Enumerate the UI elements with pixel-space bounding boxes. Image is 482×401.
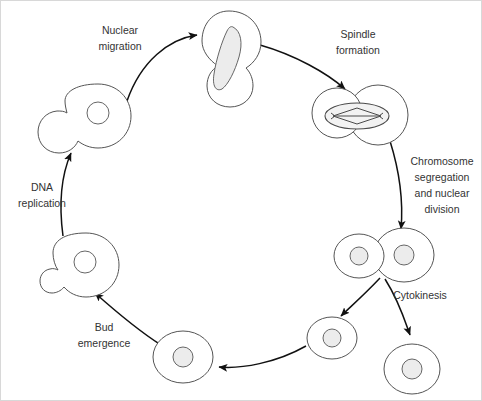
stage-nuclear-division: [334, 228, 434, 282]
stage-nuclear-migration: [202, 11, 261, 107]
label-spindle-formation: Spindle formation: [336, 28, 380, 56]
label-dna-replication: DNA replication: [18, 181, 66, 209]
stage-mother-cell: [384, 344, 440, 394]
arrow-cytokinesis-daughter: [341, 278, 380, 316]
nucleus: [87, 102, 109, 124]
stage-spindle: [312, 85, 408, 145]
nucleus: [173, 347, 193, 367]
arrow-chromosome-segregation: [390, 141, 402, 229]
stage-unbudded: [153, 331, 213, 383]
nucleus: [74, 251, 96, 273]
label-bud-emergence: Bud emergence: [78, 321, 131, 349]
label-line-1: Nuclear: [102, 24, 139, 36]
cell-cycle-diagram: Nuclear migration Spindle formation Chro…: [0, 0, 482, 401]
nucleus: [402, 359, 422, 379]
label-line-2: migration: [98, 40, 141, 52]
label-nuclear-migration: Nuclear migration: [98, 24, 141, 52]
label-line-2: emergence: [78, 337, 131, 349]
arrow-daughter-to-unbudded: [219, 346, 306, 367]
label-line-2: segregation: [415, 171, 470, 183]
label-chromosome-segregation: Chromosome segregation and nuclear divis…: [410, 155, 473, 215]
arrow-spindle-formation: [260, 45, 345, 89]
label-line-3: and nuclear: [415, 187, 470, 199]
nucleus: [323, 329, 341, 347]
nucleus-mother: [394, 245, 414, 265]
label-line-1: Spindle: [340, 28, 375, 40]
cell-wall-outline: [38, 84, 131, 153]
label-line-1: Cytokinesis: [393, 289, 447, 301]
label-line-2: formation: [336, 44, 380, 56]
label-line-1: Bud: [95, 321, 114, 333]
label-line-1: Chromosome: [410, 155, 473, 167]
stage-bud-emergence: [40, 233, 119, 297]
stage-daughter-cell: [307, 317, 357, 359]
arrow-dna-replication: [61, 153, 71, 236]
cycle-canvas: Nuclear migration Spindle formation Chro…: [1, 1, 482, 401]
label-line-1: DNA: [31, 181, 53, 193]
arrow-cytokinesis-mother: [385, 279, 410, 335]
nucleus-daughter: [350, 247, 368, 265]
label-line-2: replication: [18, 197, 66, 209]
label-line-4: division: [424, 203, 459, 215]
stage-dna-replication: [38, 84, 131, 153]
label-cytokinesis: Cytokinesis: [393, 289, 447, 301]
